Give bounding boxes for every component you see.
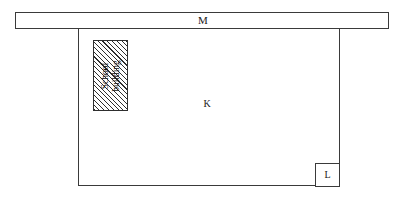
road-strip-rectangle: M <box>15 12 389 29</box>
site-plan-diagram: K M School building L <box>0 0 403 201</box>
school-building-block: School building <box>93 40 128 111</box>
road-label-m: M <box>16 13 388 28</box>
corner-parcel-label-l: L <box>316 164 339 186</box>
school-building-label: School building <box>100 60 122 92</box>
corner-parcel-box: L <box>315 163 340 187</box>
school-building-label-line-2: building <box>111 60 122 92</box>
plot-label-k: K <box>200 97 214 111</box>
school-building-label-line-1: School <box>100 60 111 92</box>
